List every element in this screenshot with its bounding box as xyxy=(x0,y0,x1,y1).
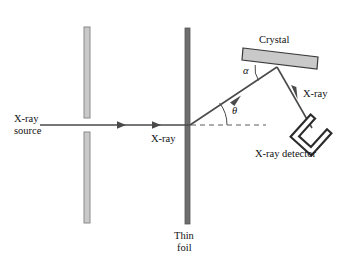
incident-beam-arrowhead-1 xyxy=(117,121,126,128)
label-xray-source-line2: source xyxy=(14,125,42,136)
collimator-slit-lower xyxy=(84,132,90,223)
label-thin-foil-line2: foil xyxy=(177,242,192,253)
theta-angle-arc xyxy=(220,103,227,125)
ray-to-crystal-group xyxy=(190,67,277,125)
label-beam-incident: X-ray xyxy=(151,133,176,144)
label-crystal: Crystal xyxy=(259,34,289,45)
collimator-slit-upper xyxy=(84,27,90,118)
alpha-angle-arc xyxy=(255,65,259,81)
incident-beam-arrowhead-2 xyxy=(152,121,161,128)
thin-foil xyxy=(185,28,190,224)
figure-canvas: X-ray source X-ray Thin foil Crystal X-r… xyxy=(0,0,345,257)
label-xray-source-line1: X-ray xyxy=(14,113,39,124)
label-angle-theta: θ xyxy=(232,105,237,116)
label-beam-diffracted: X-ray xyxy=(303,88,328,99)
crystal-group xyxy=(242,48,318,69)
label-detector: X-ray detector xyxy=(255,148,316,159)
label-angle-alpha: α xyxy=(243,65,249,76)
ray-to-crystal-line xyxy=(190,67,277,125)
label-thin-foil-line1: Thin xyxy=(174,230,195,241)
crystal-slab xyxy=(242,48,318,69)
incident-beam-group xyxy=(40,121,190,128)
xray-diffraction-diagram: X-ray source X-ray Thin foil Crystal X-r… xyxy=(0,0,345,257)
